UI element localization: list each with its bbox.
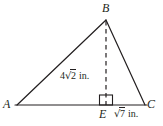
measure-label-base-segment: √7 in.	[114, 108, 138, 119]
vertex-label-C: C	[147, 98, 155, 110]
vertex-label-B: B	[102, 2, 109, 14]
base-segment-radical: √7	[114, 108, 125, 119]
base-segment-unit: in.	[128, 108, 138, 119]
triangle-outline	[15, 20, 147, 105]
altitude-radical: √2	[65, 70, 76, 81]
altitude-radicand: 2	[70, 69, 76, 81]
segment-BC	[106, 20, 145, 105]
base-segment-radicand: 7	[119, 107, 125, 119]
point-label-E: E	[99, 108, 106, 120]
vertex-label-A: A	[3, 98, 10, 110]
triangle-diagram-canvas	[0, 0, 163, 126]
geometry-figure: B A C E 4√2 in. √7 in.	[0, 0, 163, 126]
segment-AB	[17, 20, 106, 105]
altitude-unit: in.	[79, 70, 89, 81]
measure-label-altitude: 4√2 in.	[60, 70, 89, 81]
